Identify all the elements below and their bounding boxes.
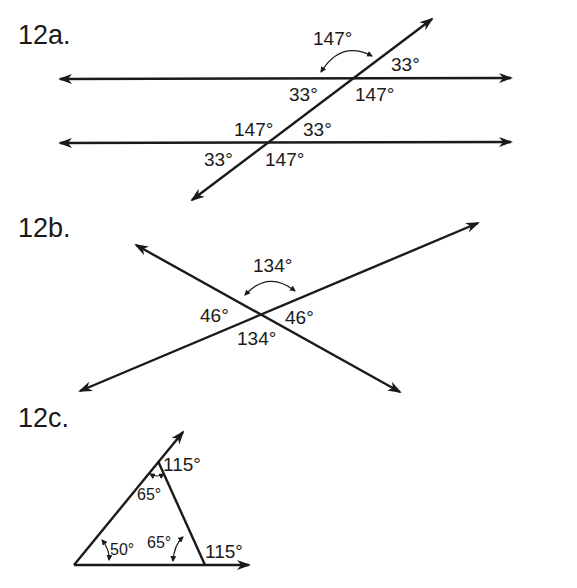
angle-label-top-lower-right: 147°	[355, 84, 394, 105]
parallel-line-upper	[60, 78, 511, 79]
transversal-line	[192, 19, 432, 200]
problem-label-12a: 12a.	[18, 20, 71, 50]
angle-label-top: 134°	[253, 255, 292, 276]
angle-label-top-lower-left: 33°	[289, 84, 318, 105]
geometry-figure: 12a. 147° 33° 33° 147° 147° 33° 33° 147°…	[0, 0, 577, 588]
problem-12a: 12a. 147° 33° 33° 147° 147° 33° 33° 147°	[18, 19, 511, 200]
angle-arc-base-right	[173, 537, 183, 561]
angle-label-top-upper-right: 33°	[391, 54, 420, 75]
angle-arc-base-left	[102, 540, 109, 560]
angle-label-bottom-upper-right: 33°	[303, 119, 332, 140]
angle-label-bottom: 134°	[237, 328, 276, 349]
parallel-line-lower	[60, 142, 511, 143]
angle-arc-134	[245, 281, 295, 295]
angle-label-right: 46°	[285, 307, 314, 328]
angle-label-base-left: 50°	[110, 541, 134, 558]
problem-label-12b: 12b.	[18, 213, 71, 243]
angle-label-top-upper-left: 147°	[313, 28, 352, 49]
angle-label-bottom-lower-left: 33°	[204, 149, 233, 170]
angle-arc-apex	[150, 474, 164, 476]
angle-label-bottom-lower-right: 147°	[265, 149, 304, 170]
angle-label-apex-exterior: 115°	[163, 454, 201, 475]
angle-label-apex-interior: 65°	[137, 486, 161, 503]
angle-label-bottom-upper-left: 147°	[234, 119, 273, 140]
problem-12b: 12b. 134° 46° 46° 134°	[18, 213, 478, 392]
angle-label-left: 46°	[200, 305, 229, 326]
problem-label-12c: 12c.	[18, 403, 69, 433]
angle-label-base-right-interior: 65°	[147, 534, 171, 551]
angle-label-base-right-exterior: 115°	[205, 541, 243, 562]
problem-12c: 12c. 115° 65° 50° 65° 115°	[18, 403, 249, 565]
